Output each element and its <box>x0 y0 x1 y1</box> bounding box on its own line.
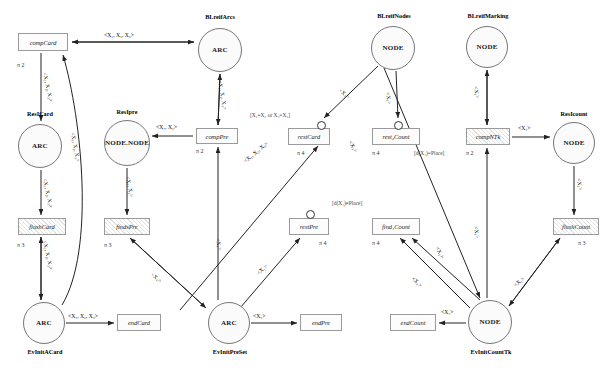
edge-evinitcounttk-flushcount <box>509 238 560 306</box>
place-type-label: NODE <box>479 318 500 326</box>
pi-comppre: π 2 <box>196 148 204 154</box>
pi-restpre: π 4 <box>319 240 327 246</box>
el-blnodes-restcard: <X₁> <box>337 88 350 100</box>
el-evcount-restcount: <X₁> <box>434 246 445 259</box>
place-type-label: NODE <box>382 44 403 52</box>
el-evcount-findcount: <X₁> <box>410 276 423 289</box>
transition-endcount[interactable]: endCount <box>390 314 436 331</box>
diagram-canvas: ARCBLreifArcsARCResICardNODE.NODEResIpre… <box>0 0 610 371</box>
transition-restcount[interactable]: rest₂Count <box>372 128 420 145</box>
pi-restcard: π 4 <box>297 150 305 156</box>
place-name-blreifmark: BLreifMarking <box>459 12 517 19</box>
place-type-label: ARC <box>212 46 228 54</box>
el-comppre-resipre: <X₁, X₂> <box>156 125 177 131</box>
el-blmark-compntk: <X₁> <box>472 86 479 99</box>
transition-label: flushCount <box>562 223 590 230</box>
el-evcount-flushcount: <X₁> <box>513 276 526 288</box>
transition-findcount[interactable]: find₁Count <box>372 218 420 235</box>
place-type-label: ARC <box>221 319 237 327</box>
transition-comppre[interactable]: compPre <box>196 128 238 144</box>
pi-findcount: π 4 <box>372 240 380 246</box>
edge-evinitcounttk-restcount <box>412 238 480 300</box>
place-evinitpreset[interactable]: ARC <box>208 302 250 344</box>
edge-evinitpreset-restpre <box>240 238 300 308</box>
pi-compntk: π 2 <box>466 150 474 156</box>
dot-restcount <box>394 121 403 130</box>
place-name-resipre: ResIpre <box>104 108 150 115</box>
edge-blreifnodes-evinitcounttk <box>384 68 480 298</box>
transition-label: rest₂Count <box>382 133 409 140</box>
pi-compcard: π 2 <box>17 62 25 68</box>
place-resipre[interactable]: NODE.NODE <box>104 120 150 166</box>
pi-restcount: π 4 <box>372 150 380 156</box>
place-type-label: ARC <box>32 142 48 150</box>
transition-label: endCount <box>401 319 426 326</box>
dot-restpre <box>306 210 315 219</box>
el-compcard-blreifarcs: <X₁, X₂, X₃> <box>104 33 134 39</box>
el-evinitpre-endpre: <X₁> <box>253 314 265 320</box>
place-name-resicard: ResICard <box>16 110 64 117</box>
el-resicard-flushcard: <X₁, X₂, X₃> <box>42 178 54 208</box>
el-blnodes-restcount: <X₁> <box>384 92 391 105</box>
place-type-label: NODE <box>476 43 497 51</box>
pi-flushcount: π 3 <box>578 240 586 246</box>
transition-endpre[interactable]: endPre <box>300 314 342 331</box>
pi-flushcard: π 3 <box>17 242 25 248</box>
el-compcard-resicard: <X₁, X₂, X₃> <box>42 72 54 102</box>
transition-label: restCard <box>298 133 320 140</box>
place-type-label: NODE <box>563 139 584 147</box>
transition-flushcard[interactable]: flushCard <box>18 218 66 235</box>
place-type-label: NODE.NODE <box>105 139 149 147</box>
el-evinitpre-restcard: <X₁, X₂, X₃> <box>243 141 269 164</box>
guard-findcount: [d(X₁)≠Place] <box>332 200 362 206</box>
place-name-evinitcounttk: EvInitCountTk <box>460 348 522 355</box>
dot-restcard <box>317 121 326 130</box>
transition-label: endCard <box>128 319 150 326</box>
edge-evinitpreset-findspre <box>130 238 206 308</box>
place-evinitacard[interactable]: ARC <box>23 302 65 344</box>
transition-label: flushCard <box>29 223 54 230</box>
transition-flushcount[interactable]: flushCount <box>553 218 599 235</box>
transition-label: endPre <box>312 319 330 326</box>
place-name-evinitacard: EvInitACard <box>18 348 72 355</box>
el-compntk-evcount: <X₁> <box>472 226 479 239</box>
place-blreifmark[interactable]: NODE <box>466 26 508 68</box>
place-type-label: ARC <box>36 319 52 327</box>
transition-label: restPre <box>300 223 318 230</box>
place-resicard[interactable]: ARC <box>18 124 62 168</box>
el-evinitacard-endcard: <X₁, X₂, X₃> <box>68 314 98 320</box>
el-evinitpre-restpre: <X₁> <box>256 264 269 276</box>
el-resipre-findspre: <X₁, X₂> <box>124 176 133 198</box>
guard-restcount: [d(X₁)=Place] <box>414 150 444 156</box>
el-flush-evinitacard: <X₁, X₂, X₃> <box>42 240 54 270</box>
el-comppre-evinitpre: <X₁> <box>214 238 222 251</box>
transition-findspre[interactable]: findsPre <box>104 218 150 235</box>
transition-endcard[interactable]: endCard <box>117 314 161 331</box>
transition-label: find₁Count <box>382 223 410 230</box>
edge-flushcount-evinitcounttk <box>509 238 560 306</box>
el-evinit-compcard: <X₁, X₂, X₃> <box>69 132 80 162</box>
edge-blreifnodes-restcount <box>396 71 398 118</box>
el-blnodes-evcount: <X₁> <box>347 140 358 153</box>
place-name-evinitpreset: EvInitPreSet <box>202 348 258 355</box>
el-resicount-flush: <X₁> <box>575 178 582 191</box>
place-blreifarcs[interactable]: ARC <box>198 28 242 72</box>
el-compntk-resicount: <X₁> <box>518 126 530 132</box>
place-name-blreifnodes: BLreifNodes <box>369 12 419 19</box>
transition-compntk[interactable]: compNTk <box>466 128 510 145</box>
guard-restcard: [X₁=X₂ or X₃=X₄] <box>250 112 290 118</box>
transition-label: findsPre <box>116 223 137 230</box>
transition-restcard[interactable]: restCard <box>288 128 330 145</box>
transition-label: compNTk <box>476 133 501 140</box>
transition-compcard[interactable]: compCard <box>18 33 68 51</box>
edge-evinitacard-compcard <box>62 55 82 305</box>
transition-label: compPre <box>206 133 229 140</box>
el-blreifarcs-comppre: <X₁, X₂, X₃> <box>216 80 227 110</box>
pi-findspre: π 3 <box>104 242 112 248</box>
place-evinitcounttk[interactable]: NODE <box>468 300 512 344</box>
edge-blreifnodes-restcard <box>324 66 378 118</box>
el-findspre-evinitpre: <X₁> <box>149 272 162 284</box>
place-blreifnodes[interactable]: NODE <box>371 26 415 70</box>
place-resicount[interactable]: NODE <box>553 122 595 164</box>
transition-restpre[interactable]: restPre <box>289 218 329 235</box>
